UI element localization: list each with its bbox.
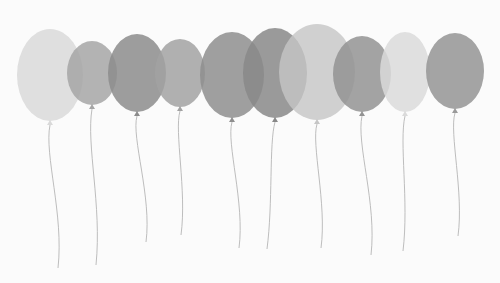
balloon-body xyxy=(426,33,484,109)
balloon-body xyxy=(155,39,205,107)
balloon-body xyxy=(380,32,430,112)
balloons-scene xyxy=(0,0,500,283)
